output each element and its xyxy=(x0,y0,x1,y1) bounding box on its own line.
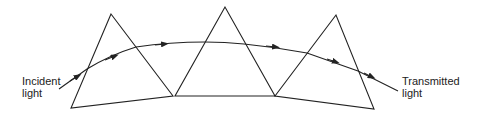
light-ray xyxy=(59,42,398,91)
prism-1 xyxy=(71,14,173,108)
prism-2 xyxy=(175,7,275,96)
transmitted-light-label: Transmitted light xyxy=(402,75,460,99)
incident-label-line1: Incident xyxy=(22,75,61,87)
incident-light-label: Incident light xyxy=(22,75,61,99)
prism-diagram-graphic xyxy=(0,0,477,117)
transmitted-label-line1: Transmitted xyxy=(402,75,460,87)
prism-3 xyxy=(275,15,374,109)
transmitted-label-line2: light xyxy=(402,87,460,99)
incident-label-line2: light xyxy=(22,87,61,99)
prism-diagram: Incident light Transmitted light xyxy=(0,0,477,117)
